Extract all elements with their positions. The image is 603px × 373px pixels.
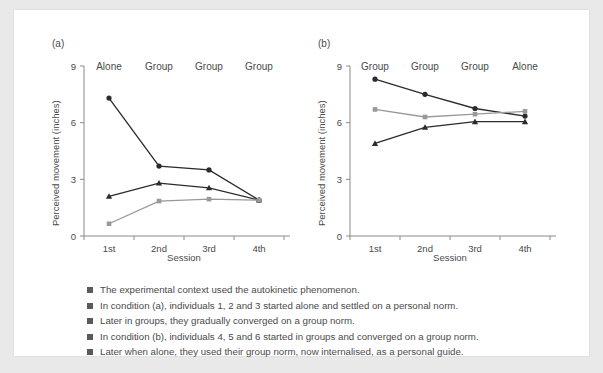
svg-text:3: 3 xyxy=(337,174,342,185)
svg-text:1st: 1st xyxy=(369,243,382,254)
figure-card: (a) Perceived movement (inches) Session … xyxy=(14,10,589,356)
square-bullet-icon xyxy=(87,349,93,355)
svg-text:3rd: 3rd xyxy=(468,243,482,254)
svg-text:Group: Group xyxy=(361,61,389,72)
square-bullet-icon xyxy=(87,287,93,293)
list-item: Later in groups, they gradually converge… xyxy=(87,315,567,327)
svg-text:3rd: 3rd xyxy=(202,243,216,254)
svg-text:9: 9 xyxy=(337,61,342,72)
summary-bullet-list: The experimental context used the autoki… xyxy=(87,284,567,362)
list-item-text: In condition (a), individuals 1, 2 and 3… xyxy=(100,300,458,312)
svg-text:2nd: 2nd xyxy=(417,243,433,254)
square-bullet-icon xyxy=(87,334,93,340)
square-bullet-icon xyxy=(87,303,93,309)
panel-a-plot: 03691st2nd3rd4thAloneGroupGroupGroup xyxy=(36,38,316,268)
svg-text:Group: Group xyxy=(411,61,439,72)
square-bullet-icon xyxy=(87,318,93,324)
chart-panel-b: (b) Perceived movement (inches) Session … xyxy=(302,38,582,268)
panel-b-plot: 03691st2nd3rd4thGroupGroupGroupAlone xyxy=(302,38,582,268)
list-item-text: Later when alone, they used their group … xyxy=(100,346,464,358)
list-item-text: The experimental context used the autoki… xyxy=(100,284,360,296)
list-item: In condition (b), individuals 4, 5 and 6… xyxy=(87,331,567,343)
svg-text:9: 9 xyxy=(71,61,76,72)
list-item-text: Later in groups, they gradually converge… xyxy=(100,315,355,327)
list-item-text: In condition (b), individuals 4, 5 and 6… xyxy=(100,331,479,343)
svg-text:4th: 4th xyxy=(252,243,265,254)
svg-text:6: 6 xyxy=(337,117,342,128)
chart-panel-a: (a) Perceived movement (inches) Session … xyxy=(36,38,316,268)
svg-text:4th: 4th xyxy=(518,243,531,254)
svg-text:Group: Group xyxy=(145,61,173,72)
list-item: Later when alone, they used their group … xyxy=(87,346,567,358)
svg-text:Alone: Alone xyxy=(512,61,538,72)
svg-text:0: 0 xyxy=(71,231,76,242)
svg-text:6: 6 xyxy=(71,117,76,128)
svg-text:1st: 1st xyxy=(103,243,116,254)
svg-text:3: 3 xyxy=(71,174,76,185)
svg-text:Group: Group xyxy=(245,61,273,72)
svg-text:0: 0 xyxy=(337,231,342,242)
svg-text:Group: Group xyxy=(461,61,489,72)
svg-text:2nd: 2nd xyxy=(151,243,167,254)
svg-text:Alone: Alone xyxy=(96,61,122,72)
svg-text:Group: Group xyxy=(195,61,223,72)
list-item: The experimental context used the autoki… xyxy=(87,284,567,296)
list-item: In condition (a), individuals 1, 2 and 3… xyxy=(87,300,567,312)
